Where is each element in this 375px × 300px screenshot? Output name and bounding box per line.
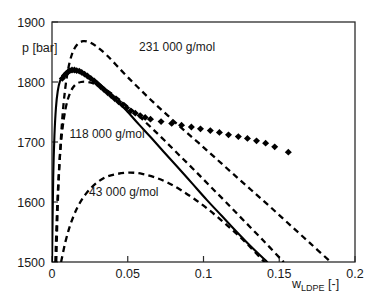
data-point-marker (244, 135, 251, 142)
data-point-marker (207, 127, 214, 134)
x-axis-title-unit: [-] (325, 277, 340, 291)
y-axis-title: p [bar] (22, 41, 57, 55)
x-tick-label-0.1: 0.1 (195, 267, 212, 281)
x-axis-tick-labels: 00.050.10.150.2 (49, 267, 364, 281)
y-tick-label-1900: 1900 (17, 16, 45, 30)
y-tick-label-1600: 1600 (17, 196, 45, 210)
data-point-markers (59, 67, 292, 156)
annotation-43000: 43 000 g/mol (89, 185, 158, 199)
x-axis-title: wLDPE [-] (291, 277, 339, 293)
x-tick-label-0: 0 (49, 267, 56, 281)
chart-canvas: 15001600170018001900 00.050.10.150.2 231… (0, 0, 375, 300)
data-point-marker (225, 131, 232, 138)
x-tick-label-0.15: 0.15 (267, 267, 291, 281)
plot-frame (52, 22, 355, 262)
data-point-marker (158, 118, 165, 125)
y-tick-label-1500: 1500 (17, 256, 45, 270)
data-point-marker (271, 143, 278, 150)
data-point-marker (178, 122, 185, 129)
y-tick-label-1800: 1800 (17, 76, 45, 90)
data-point-marker (285, 149, 292, 156)
data-point-marker (262, 140, 269, 147)
annotation-118000: 118 000 g/mol (69, 127, 144, 141)
data-point-marker (235, 133, 242, 140)
x-axis-ticks (52, 256, 355, 262)
plot-frame-group (52, 22, 355, 262)
chart-figure: 15001600170018001900 00.050.10.150.2 231… (0, 0, 375, 300)
y-tick-label-1700: 1700 (17, 136, 45, 150)
x-tick-label-0.2: 0.2 (346, 267, 363, 281)
data-point-marker (197, 125, 204, 132)
annotation-231000: 231 000 g/mol (139, 40, 215, 54)
data-point-marker (253, 137, 260, 144)
data-point-marker (216, 129, 223, 136)
x-tick-label-0.05: 0.05 (116, 267, 140, 281)
curve-118-000-g-mol (55, 82, 283, 262)
x-axis-title-subscript: LDPE (301, 283, 325, 293)
data-point-marker (188, 124, 195, 131)
